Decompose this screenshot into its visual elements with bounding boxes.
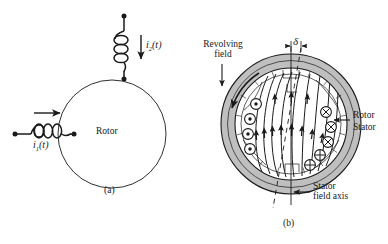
terminal-dot-right [72, 132, 77, 137]
into-page-symbol-x [326, 122, 337, 133]
into-page-symbol-x [323, 137, 334, 148]
caption-a: (a) [104, 186, 115, 196]
current-2-label: i2(t) [146, 40, 161, 53]
stator-field-axis-label: Stator field axis [313, 182, 348, 202]
current-1-label: i1(t) [33, 140, 48, 153]
terminal-dot-top [122, 14, 127, 19]
figure-canvas [0, 0, 388, 244]
out-of-page-symbol [251, 99, 262, 110]
stator-label-panel-b: Stator [353, 123, 376, 133]
out-of-page-symbol [245, 114, 256, 125]
figure-container: Rotor i1(t) i2(t) (a) Revolving field δ … [0, 0, 388, 244]
out-of-page-symbol [243, 129, 254, 140]
terminal-dot-bottom [122, 77, 127, 82]
caption-b: (b) [283, 219, 294, 229]
into-page-symbol-x [321, 107, 332, 118]
coil-2-group [114, 14, 141, 82]
stator-field-axis-line-1: Stator [313, 181, 336, 191]
revolving-field-line-2: field [214, 49, 231, 59]
rotor-label-panel-a: Rotor [96, 127, 118, 137]
panel-a-graphics [13, 14, 167, 189]
rotor-label-panel-b: Rotor [353, 111, 375, 121]
into-page-symbol-plus [315, 150, 326, 161]
into-page-symbol-plus [305, 160, 316, 171]
revolving-field-line-1: Revolving [203, 39, 243, 49]
terminal-dot-left [13, 132, 18, 137]
current-2-arg: (t) [152, 39, 161, 50]
out-of-page-symbol [245, 144, 256, 155]
delta-angle-label: δ [293, 36, 298, 48]
stator-field-axis-line-2: field axis [313, 191, 348, 201]
current-1-arg: (t) [39, 139, 48, 150]
revolving-field-label: Revolving field [186, 40, 260, 60]
